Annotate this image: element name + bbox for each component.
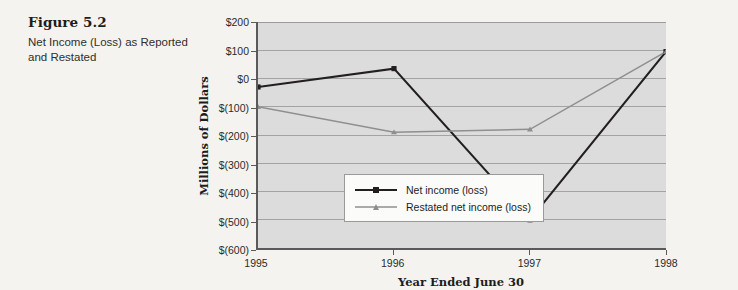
x-axis-title: Year Ended June 30 — [398, 275, 524, 289]
y-axis-title: Millions of Dollars — [197, 76, 211, 196]
data-point-marker — [258, 84, 261, 89]
figure-caption-text: Net Income (Loss) as Reported and Restat… — [28, 35, 208, 65]
y-axis-tick-label: $(600) — [219, 244, 249, 256]
chart-container: Millions of Dollars $200$100$0$(100)$(20… — [196, 8, 726, 284]
legend-item-restated-net-income: Restated net income (loss) — [353, 198, 531, 215]
data-point-marker — [391, 66, 396, 71]
figure-root: Figure 5.2 Net Income (Loss) as Reported… — [0, 0, 738, 290]
y-axis-tick-mark — [251, 222, 256, 223]
y-axis-tick-label: $100 — [226, 45, 249, 57]
legend-label-restated-net-income: Restated net income (loss) — [406, 201, 531, 213]
y-axis-tick-label: $(500) — [219, 216, 249, 228]
x-axis-tick-label: 1998 — [654, 257, 677, 269]
chart-legend: Net income (loss) Restated net income (l… — [344, 174, 544, 222]
x-axis-tick-mark — [529, 250, 530, 255]
y-axis-tick-mark — [251, 79, 256, 80]
figure-number: Figure 5.2 — [28, 14, 208, 30]
legend-swatch-net-income — [353, 184, 399, 196]
x-axis-tick-label: 1995 — [244, 257, 267, 269]
y-axis-tick-mark — [251, 108, 256, 109]
y-axis-tick-label: $(100) — [219, 102, 249, 114]
y-axis-tick-label: $(200) — [219, 130, 249, 142]
y-axis-tick-mark — [251, 136, 256, 137]
y-axis-tick-label: $200 — [226, 16, 249, 28]
figure-caption-block: Figure 5.2 Net Income (Loss) as Reported… — [28, 14, 208, 65]
y-axis-tick-mark — [251, 193, 256, 194]
y-axis-tick-label: $0 — [237, 73, 249, 85]
y-axis-tick-mark — [251, 165, 256, 166]
legend-label-net-income: Net income (loss) — [406, 184, 488, 196]
y-axis-tick-label: $(300) — [219, 159, 249, 171]
x-axis-tick-label: 1996 — [381, 257, 404, 269]
y-axis-tick-label: $(400) — [219, 187, 249, 199]
series-line — [258, 52, 666, 133]
x-axis-tick-mark — [393, 250, 394, 255]
legend-item-net-income: Net income (loss) — [353, 181, 531, 198]
y-axis-tick-mark — [251, 250, 256, 251]
y-axis-tick-mark — [251, 51, 256, 52]
y-axis-tick-mark — [251, 22, 256, 23]
x-axis-tick-mark — [666, 250, 667, 255]
legend-swatch-restated-net-income — [353, 201, 399, 213]
plot-wrapper: Millions of Dollars $200$100$0$(100)$(20… — [256, 22, 666, 250]
x-axis-tick-label: 1997 — [518, 257, 541, 269]
